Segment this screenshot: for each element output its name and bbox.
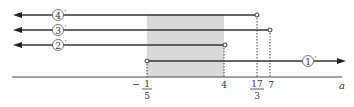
svg-text:3: 3 (254, 91, 260, 101)
left-arrow-icon (13, 42, 22, 48)
open-endpoint (223, 43, 227, 47)
ray-label-3: 3 (55, 26, 61, 36)
ray-label-2: 2 (55, 41, 61, 51)
left-arrow-icon (13, 27, 22, 33)
left-arrow-icon (13, 12, 22, 18)
shaded-region (147, 15, 224, 77)
tick-seven: 7 (268, 80, 274, 90)
svg-text:5: 5 (144, 91, 150, 101)
prime-mark: ′ (65, 38, 67, 47)
ray-3: 3 ′ (13, 23, 272, 36)
tick-seventeen-thirds: 17 3 (250, 79, 264, 101)
svg-text:−: − (132, 79, 140, 90)
number-line-diagram: 4 ′ 3 ′ 2 ′ 1 ′ − 1 5 4 17 3 (0, 0, 354, 107)
open-endpoint (145, 59, 149, 63)
prime-mark: ′ (65, 23, 67, 32)
open-endpoint (268, 28, 272, 32)
ray-label-1: 1 (305, 57, 311, 67)
ray-label-4: 4 (55, 11, 61, 21)
svg-text:17: 17 (251, 79, 263, 89)
open-endpoint (255, 13, 259, 17)
svg-text:1: 1 (144, 79, 150, 89)
axis-label: a (339, 80, 345, 91)
prime-mark: ′ (65, 8, 67, 17)
prime-mark: ′ (315, 54, 317, 63)
tick-neg-one-fifth: − 1 5 (132, 79, 152, 101)
tick-four: 4 (221, 80, 227, 90)
right-arrow-icon (337, 58, 346, 64)
